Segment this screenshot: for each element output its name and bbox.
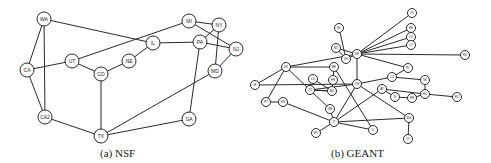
node-cz: CZ: [388, 73, 397, 82]
node-pl: PL: [404, 64, 413, 73]
nsf-topology-graph: WACACA2UTCONEILMINYPANJMDGATX: [20, 12, 243, 143]
node-md: MD: [208, 64, 222, 78]
node-label: NL: [337, 26, 341, 30]
edge-n16-n29: [334, 84, 357, 122]
node-wa: WA: [37, 12, 51, 26]
node-label: PL: [406, 66, 410, 70]
edge-n9-n4: [357, 45, 411, 54]
node-label: CY: [406, 137, 410, 141]
node-ie: IE: [251, 81, 260, 90]
node-label: DE: [355, 52, 359, 56]
edge-CA-CA2: [27, 70, 45, 117]
node-label: SI: [394, 95, 397, 99]
node-be: BE: [330, 63, 339, 72]
node-pt: PT: [262, 98, 271, 107]
node-ch: CH: [353, 80, 362, 89]
node-label: WA: [40, 16, 49, 22]
node-il: IL: [146, 36, 160, 50]
node-label: LV: [409, 35, 412, 39]
node-mt: MT: [312, 129, 321, 138]
node-label: IL: [372, 128, 375, 132]
node-de: DE: [353, 50, 362, 59]
node-label: PA: [197, 39, 204, 45]
node-ee: EE: [407, 24, 416, 33]
node-label: MC: [330, 89, 335, 93]
node-label: MI: [186, 18, 192, 24]
node-nl: NL: [335, 24, 344, 33]
node-label: HU: [423, 92, 427, 96]
node-label: NO: [334, 46, 339, 50]
edge-n29-n32: [334, 118, 409, 122]
node-label: BE: [332, 65, 336, 69]
node-label: AT: [380, 87, 384, 91]
node-is: IS: [408, 9, 417, 18]
node-label: MT: [314, 131, 318, 135]
edge-WA-CA: [27, 19, 44, 70]
edge-WA-CA2: [44, 19, 45, 117]
node-mi: MI: [182, 14, 196, 28]
node-label: EE: [409, 26, 413, 30]
node-ga: GA: [182, 112, 196, 126]
node-label: CA: [24, 67, 32, 73]
node-bg: BG: [405, 114, 414, 123]
node-gr: GR: [326, 105, 335, 114]
node-es: ES: [279, 98, 288, 107]
geant-topology-graph: ISEELVLTRUNLNODKDEPLUKBEIELUFRCHCZSKATSI…: [251, 9, 470, 144]
node-uk: UK: [282, 63, 291, 72]
node-label: CH: [355, 82, 359, 86]
node-sk: SK: [421, 76, 430, 85]
node-ut: UT: [65, 54, 79, 68]
node-ca2: CA2: [38, 110, 52, 124]
edge-n9-n10: [357, 54, 408, 68]
node-label: NJ: [233, 46, 240, 52]
edge-n19-n29: [334, 89, 382, 122]
node-label: UK: [284, 65, 288, 69]
node-label: IL: [151, 40, 155, 46]
edge-n9-n1: [357, 13, 412, 54]
node-lu: LU: [309, 75, 318, 84]
geant-caption: (b) GEANT: [331, 147, 384, 159]
nsf-caption: (a) NSF: [100, 147, 135, 159]
node-nj: NJ: [229, 42, 243, 56]
node-fr: FR: [329, 76, 338, 85]
node-label: NY: [216, 22, 224, 28]
node-label: BG: [407, 116, 412, 120]
figure-canvas: WACACA2UTCONEILMINYPANJMDGATX ISEELVLTRU…: [0, 0, 491, 163]
node-ca: CA: [20, 63, 34, 77]
node-il: IL: [369, 126, 378, 135]
node-hr: HR: [408, 94, 417, 103]
node-label: NE: [126, 58, 134, 64]
edge-n13-n16: [255, 84, 357, 85]
node-label: TX: [98, 133, 105, 139]
nsf-nodes: WACACA2UTCONEILMINYPANJMDGATX: [20, 12, 243, 143]
node-lt: LT: [407, 41, 416, 50]
node-pa: PA: [193, 35, 207, 49]
edge-n9-n2: [357, 28, 411, 54]
node-label: CO: [97, 71, 105, 77]
node-label: MD: [211, 68, 219, 74]
node-label: IE: [254, 83, 257, 87]
node-it2: IT2: [306, 86, 315, 95]
node-label: RU: [463, 53, 467, 57]
node-ny: NY: [212, 18, 226, 32]
node-label: UT: [69, 58, 76, 64]
edge-CA2-TX: [45, 117, 101, 136]
geant-nodes: ISEELVLTRUNLNODKDEPLUKBEIELUFRCHCZSKATSI…: [251, 9, 470, 144]
node-label: DK: [344, 57, 348, 61]
node-dk: DK: [342, 55, 351, 64]
node-label: IT2: [308, 88, 313, 92]
node-label: SK: [423, 78, 427, 82]
node-no: NO: [332, 44, 341, 53]
node-si: SI: [391, 93, 400, 102]
node-label: PT: [264, 100, 268, 104]
node-label: IT: [333, 120, 336, 124]
edge-GA-TX: [101, 119, 189, 136]
node-it: IT: [330, 118, 339, 127]
node-mc: MC: [328, 87, 337, 96]
node-ru: RU: [461, 51, 470, 60]
node-co: CO: [94, 67, 108, 81]
node-label: LU: [311, 77, 315, 81]
node-label: LT: [409, 43, 412, 47]
node-tx: TX: [94, 129, 108, 143]
edge-MD-TX: [101, 71, 215, 136]
